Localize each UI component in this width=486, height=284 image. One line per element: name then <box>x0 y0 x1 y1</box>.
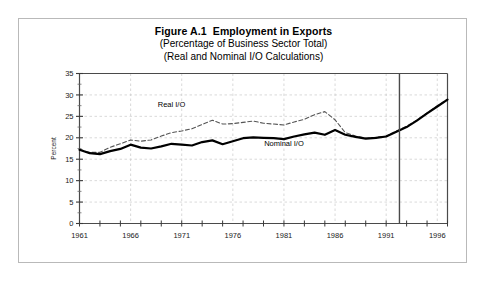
y-tick-label: 25 <box>65 112 73 121</box>
gridlines <box>80 74 448 224</box>
x-tick-label: 1981 <box>276 231 293 240</box>
plot-area: 05101520253035 1961196619711976198119861… <box>19 19 468 264</box>
y-tick-label: 30 <box>65 91 73 100</box>
y-tick-label: 10 <box>65 176 73 185</box>
y-axis-title: Percent <box>50 137 57 160</box>
chart-svg: 05101520253035 1961196619711976198119861… <box>19 19 468 264</box>
axis-ticks <box>76 74 448 227</box>
x-tick-label: 1996 <box>429 231 446 240</box>
y-tick-label: 0 <box>69 219 73 228</box>
x-tick-label: 1986 <box>327 231 344 240</box>
y-axis-label: Percent <box>50 137 57 160</box>
figure-frame: Figure A.1 Employment in Exports (Percen… <box>18 18 467 263</box>
y-tick-label: 20 <box>65 133 73 142</box>
y-axis-tick-labels: 05101520253035 <box>65 69 73 228</box>
x-tick-label: 1966 <box>122 231 139 240</box>
y-tick-label: 5 <box>69 198 73 207</box>
x-tick-label: 1961 <box>71 231 88 240</box>
x-tick-label: 1991 <box>378 231 395 240</box>
y-tick-label: 15 <box>65 155 73 164</box>
annotation-real-i-o: Real I/O <box>158 100 186 109</box>
axes <box>80 74 448 224</box>
annotation-nominal-i-o: Nominal I/O <box>264 139 304 148</box>
y-tick-label: 35 <box>65 69 73 78</box>
x-tick-label: 1971 <box>173 231 190 240</box>
x-axis-tick-labels: 19611966197119761981198619911996 <box>71 231 445 240</box>
x-tick-label: 1976 <box>224 231 241 240</box>
